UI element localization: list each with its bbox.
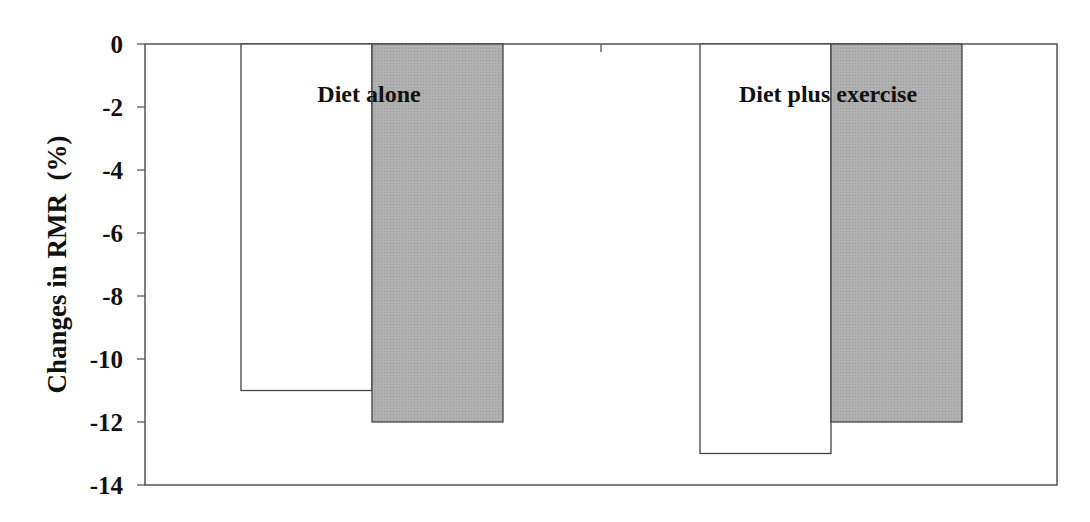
category-label: Diet plus exercise xyxy=(739,81,918,107)
category-label: Diet alone xyxy=(317,81,421,107)
y-tick-label: -8 xyxy=(102,283,123,310)
y-tick-label: -2 xyxy=(102,94,123,121)
bar-chart: Diet aloneDiet plus exercise0-2-4-6-8-10… xyxy=(0,0,1090,522)
y-tick-label: 0 xyxy=(111,31,124,58)
y-tick-label: -6 xyxy=(102,220,123,247)
y-tick-label: -4 xyxy=(102,157,123,184)
y-tick-label: -10 xyxy=(90,346,123,373)
y-axis-label: Changes in RMR (%) xyxy=(42,135,72,393)
y-tick-label: -14 xyxy=(90,472,124,499)
y-tick-label: -12 xyxy=(90,409,123,436)
